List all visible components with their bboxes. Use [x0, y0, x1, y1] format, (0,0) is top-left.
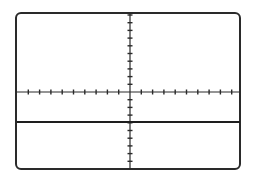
graticule	[0, 0, 258, 174]
